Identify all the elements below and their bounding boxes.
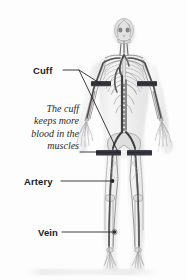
- cuff-left-upper-arm: [137, 81, 157, 86]
- anatomy-figure: Cuff Artery Vein The cuff keeps more blo…: [0, 0, 187, 280]
- note-line-1: The cuff: [7, 103, 79, 115]
- note-line-4: muscles: [7, 140, 79, 152]
- note-line-3: blood in the: [7, 128, 79, 140]
- label-cuff: Cuff: [33, 66, 52, 76]
- note-line-2: keeps more: [7, 115, 79, 127]
- label-vein: Vein: [38, 228, 58, 238]
- cuff-explanation-note: The cuff keeps more blood in the muscles: [7, 103, 79, 153]
- cuff-left-thigh: [127, 150, 152, 156]
- scan-artifact-smudge: [26, 269, 160, 275]
- label-artery: Artery: [24, 177, 53, 187]
- vein-target-dot: [113, 230, 116, 233]
- artery-target-dot: [111, 179, 115, 183]
